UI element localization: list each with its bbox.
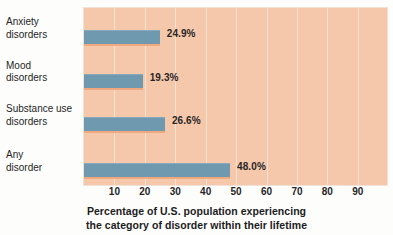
bar[interactable] bbox=[84, 117, 165, 133]
x-axis-tick-labels: 102030405060708090 bbox=[84, 186, 387, 200]
bar-value-label: 48.0% bbox=[237, 161, 266, 172]
plot-area: 24.9%19.3%26.6%48.0% bbox=[84, 8, 387, 185]
x-tick-label: 80 bbox=[322, 186, 333, 197]
x-tick-label: 30 bbox=[170, 186, 181, 197]
x-tick-label: 20 bbox=[139, 186, 150, 197]
x-tick-label: 90 bbox=[352, 186, 363, 197]
bars-layer: 24.9%19.3%26.6%48.0% bbox=[84, 8, 387, 185]
bar[interactable] bbox=[84, 30, 160, 46]
x-tick-label: 10 bbox=[109, 186, 120, 197]
x-tick-label: 50 bbox=[231, 186, 242, 197]
x-axis-caption-line-1: Percentage of U.S. population experienci… bbox=[0, 204, 393, 218]
bar[interactable] bbox=[84, 74, 143, 90]
x-tick-label: 40 bbox=[200, 186, 211, 197]
chart-figure: 24.9%19.3%26.6%48.0% Anxiety disordersMo… bbox=[0, 0, 393, 235]
x-tick-label: 60 bbox=[261, 186, 272, 197]
bar[interactable] bbox=[84, 163, 230, 179]
category-label: Anxiety disorders bbox=[6, 16, 82, 41]
category-label: Substance use disorders bbox=[6, 103, 82, 128]
category-label: Any disorder bbox=[6, 149, 82, 174]
x-axis-caption: Percentage of U.S. population experienci… bbox=[0, 204, 393, 232]
bar-value-label: 26.6% bbox=[172, 115, 201, 126]
category-label: Mood disorders bbox=[6, 60, 82, 85]
x-axis-caption-line-2: the category of disorder within their li… bbox=[0, 218, 393, 232]
bar-value-label: 19.3% bbox=[150, 72, 179, 83]
x-tick-label: 70 bbox=[291, 186, 302, 197]
bar-value-label: 24.9% bbox=[167, 28, 196, 39]
